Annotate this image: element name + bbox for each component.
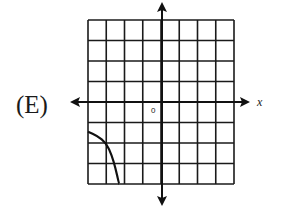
x-axis-label: x [256, 95, 263, 109]
graph: 0 x [0, 0, 282, 212]
origin-label: 0 [151, 106, 156, 115]
function-curve [88, 132, 119, 184]
